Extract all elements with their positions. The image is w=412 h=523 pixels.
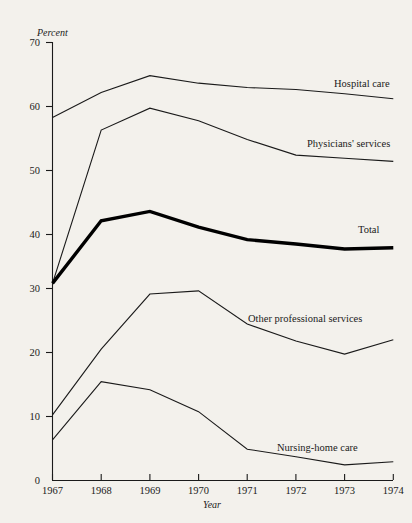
x-tick-label-1967: 1967 bbox=[42, 485, 63, 496]
x-tick-label-1974: 1974 bbox=[383, 485, 405, 496]
x-tick-marks bbox=[53, 474, 394, 480]
y-tick-label-70: 70 bbox=[30, 37, 41, 48]
y-tick-label-20: 20 bbox=[30, 347, 41, 358]
series-label-nursing-home-care: Nursing-home care bbox=[277, 442, 358, 453]
chart-page: Percent 70 60 50 40 30 20 10 0 bbox=[0, 0, 412, 523]
series-label-other-professional-services: Other professional services bbox=[248, 313, 362, 324]
y-tick-label-30: 30 bbox=[30, 283, 41, 294]
y-tick-label-0: 0 bbox=[35, 475, 40, 486]
y-tick-label-40: 40 bbox=[30, 229, 41, 240]
y-tick-marks bbox=[46, 43, 52, 417]
x-axis-label: Year bbox=[203, 499, 221, 510]
series-line-total bbox=[53, 211, 394, 283]
x-tick-label-1969: 1969 bbox=[139, 485, 160, 496]
series-label-total: Total bbox=[358, 224, 380, 235]
series-label-physicians-services: Physicians' services bbox=[307, 138, 390, 149]
y-tick-label-60: 60 bbox=[30, 101, 41, 112]
x-tick-label-1973: 1973 bbox=[334, 485, 355, 496]
x-tick-label-1970: 1970 bbox=[188, 485, 209, 496]
y-tick-label-10: 10 bbox=[30, 411, 41, 422]
series-line-other-professional-services bbox=[53, 291, 394, 415]
x-tick-label-1968: 1968 bbox=[91, 485, 112, 496]
y-axis-label: Percent bbox=[36, 27, 68, 38]
x-tick-label-1971: 1971 bbox=[237, 485, 258, 496]
y-tick-label-50: 50 bbox=[30, 165, 41, 176]
line-chart: Percent 70 60 50 40 30 20 10 0 bbox=[0, 0, 412, 523]
series-label-hospital-care: Hospital care bbox=[334, 78, 390, 89]
series-line-physicians-services bbox=[53, 108, 394, 283]
x-tick-label-1972: 1972 bbox=[285, 485, 306, 496]
